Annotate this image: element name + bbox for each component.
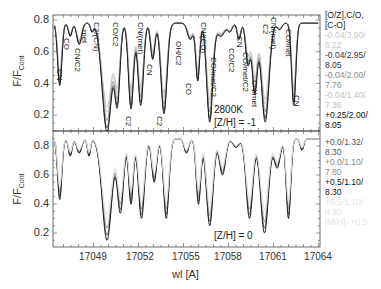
top-ytick: 0.6 <box>19 45 49 57</box>
legend-entry: +0.0/1.32/8.30 <box>325 137 381 157</box>
xtick: 17052 <box>120 251 160 262</box>
line-label: CO/met <box>284 29 293 57</box>
line-label: CO <box>62 38 71 50</box>
line-label: CO/met/C2 <box>241 52 250 92</box>
metallicity-note-top: [Z/H] = -1 <box>214 117 256 128</box>
bottom-ytick: 0.6 <box>19 168 49 180</box>
legend-entry: +0.5/1.10/8.30 <box>325 197 381 217</box>
line-label: CO/C2 <box>227 48 236 72</box>
spectrum-figure <box>0 0 381 289</box>
legend-entry: -0.04/3.90/8.22 <box>325 30 381 50</box>
line-label: C2 <box>155 116 164 126</box>
line-label: CN <box>235 36 244 48</box>
bottom-ytick: 0.4 <box>19 197 49 209</box>
xtick: 17055 <box>166 251 206 262</box>
line-label: CN/(met) <box>269 17 278 49</box>
line-label: CO/C2 <box>111 22 120 46</box>
xtick: 17061 <box>253 251 293 262</box>
line-label: CN <box>55 69 64 81</box>
legend-entry: +0.5/1.10/8.30 <box>325 177 381 197</box>
x-axis-label: wl [A] <box>172 268 199 280</box>
line-label: CO/met/C2 <box>209 57 218 97</box>
line-label: C2/(CN) <box>92 22 101 51</box>
line-label: CN/met <box>250 80 259 107</box>
bottom-panel-frame <box>53 131 320 247</box>
metallicity-note-bottom: [Z/H] = 0 <box>214 230 253 241</box>
legend-entry: -0.04/1.40/7.36 <box>325 90 381 110</box>
line-label: met <box>80 30 89 43</box>
line-label: CN/(CO) <box>199 22 208 53</box>
xtick: 17049 <box>73 251 113 262</box>
legend-entry: -0.04/2.00/7.76 <box>325 70 381 90</box>
legend-title: [O/Z],C/O,[C-O] <box>325 10 381 30</box>
legend-entry: +0.25/2.00/8.05 <box>325 110 381 130</box>
top-ytick: 0.4 <box>19 77 49 89</box>
line-label: C2 <box>124 116 133 126</box>
legend-entry: +0.0/1.10/7.80 <box>325 157 381 177</box>
xtick: 17064 <box>298 251 338 262</box>
spectrum-line <box>55 139 319 240</box>
legend-entry: [M/H]=+0.5 <box>325 217 381 227</box>
line-label: OH/C2 <box>174 41 183 65</box>
bottom-ytick: 0.8 <box>19 139 49 151</box>
bottom-ytick: 0.2 <box>19 226 49 238</box>
line-label: CN <box>145 64 154 76</box>
line-label: CN/C2 <box>73 48 82 72</box>
bottom-panel-spectra <box>55 139 319 240</box>
top-ytick: 0.8 <box>19 13 49 25</box>
temperature-note: 2800K <box>214 104 243 115</box>
xtick: 17058 <box>208 251 248 262</box>
line-label: CN/(met) <box>136 22 145 54</box>
legend-entry: -0.04/2.95/8.05 <box>325 50 381 70</box>
line-label: CO <box>184 83 193 95</box>
line-label: CN <box>292 95 301 107</box>
top-ytick: 0.2 <box>19 108 49 120</box>
